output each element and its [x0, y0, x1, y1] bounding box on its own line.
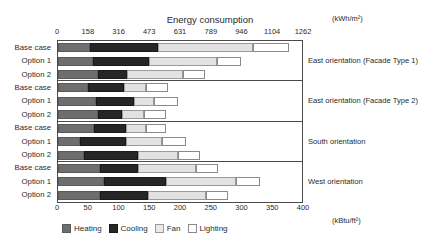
stacked-bar[interactable] — [58, 177, 260, 186]
bar-segment-cooling — [80, 137, 126, 146]
stacked-bar[interactable] — [58, 57, 241, 66]
bar-group — [58, 122, 302, 162]
category-label: Option 1 — [22, 137, 51, 146]
axis-tick-label: 789 — [205, 27, 218, 36]
axis-tick-label: 350 — [266, 203, 279, 212]
bar-segment-heating — [58, 124, 94, 133]
category-label: Option 2 — [22, 70, 51, 79]
axis-tick-label: 158 — [82, 27, 95, 36]
stacked-bar[interactable] — [58, 191, 228, 200]
bar-segment-heating — [58, 43, 90, 52]
stacked-bar[interactable] — [58, 43, 289, 52]
axis-tick-label: 250 — [204, 203, 217, 212]
bar-segment-cooling — [94, 124, 126, 133]
bar-segment-lighting — [146, 83, 168, 92]
bar-segment-heating — [58, 70, 98, 79]
bar-segment-heating — [58, 191, 100, 200]
category-label: Option 2 — [22, 150, 51, 159]
legend-label: Cooling — [121, 224, 148, 233]
axis-tick-label: 631 — [174, 27, 187, 36]
chart-title: Energy consumption — [120, 14, 300, 25]
legend-item-fan[interactable]: Fan — [155, 224, 181, 233]
bar-segment-heating — [58, 83, 88, 92]
bar-segment-lighting — [183, 70, 205, 79]
legend-item-lighting[interactable]: Lighting — [188, 224, 228, 233]
axis-tick-label: 300 — [235, 203, 248, 212]
legend-item-heating[interactable]: Heating — [62, 224, 102, 233]
bar-segment-cooling — [98, 110, 122, 119]
axis-tick-label: 150 — [143, 203, 156, 212]
plot-area — [57, 40, 303, 203]
legend-swatch-cooling — [109, 224, 118, 233]
bar-segment-fan — [138, 151, 178, 160]
bar-segment-lighting — [146, 124, 166, 133]
axis-tick-label: 0 — [55, 27, 59, 36]
stacked-bar[interactable] — [58, 83, 168, 92]
axis-tick-label: 200 — [174, 203, 187, 212]
bar-segment-fan — [138, 164, 196, 173]
axis-tick-label: 100 — [112, 203, 125, 212]
energy-consumption-chart: Energy consumption (kWh/m²) 015831647363… — [0, 0, 424, 248]
group-labels: East orientation (Facade Type 1)East ori… — [306, 40, 424, 203]
axis-tick-label: 1262 — [295, 27, 312, 36]
bar-row — [58, 189, 302, 202]
bar-segment-fan — [166, 177, 236, 186]
axis-tick-label: 316 — [112, 27, 125, 36]
category-label: Base case — [15, 83, 51, 92]
stacked-bar[interactable] — [58, 110, 166, 119]
bar-segment-heating — [58, 137, 80, 146]
axis-tick-label: 400 — [297, 203, 310, 212]
bar-segment-fan — [122, 110, 144, 119]
group-label: East orientation (Facade Type 1) — [308, 56, 418, 65]
bar-segment-cooling — [98, 70, 127, 79]
chart-legend: HeatingCoolingFanLighting — [62, 224, 228, 233]
bar-segment-lighting — [144, 110, 166, 119]
axis-tick-label: 50 — [84, 203, 92, 212]
bar-segment-cooling — [90, 43, 158, 52]
axis-tick-label: 0 — [55, 203, 59, 212]
legend-swatch-lighting — [188, 224, 197, 233]
bar-segment-cooling — [100, 164, 138, 173]
stacked-bar[interactable] — [58, 97, 178, 106]
legend-swatch-heating — [62, 224, 71, 233]
category-label: Option 1 — [22, 177, 51, 186]
axis-tick-label: 473 — [143, 27, 156, 36]
category-label: Option 1 — [22, 96, 51, 105]
group-label: West orientation — [308, 177, 363, 186]
bar-segment-cooling — [88, 83, 124, 92]
bar-segment-cooling — [100, 191, 148, 200]
legend-label: Heating — [74, 224, 102, 233]
bar-segment-fan — [124, 83, 146, 92]
bar-segment-fan — [158, 43, 253, 52]
bar-segment-fan — [126, 124, 146, 133]
bar-row — [58, 175, 302, 188]
bar-row — [58, 135, 302, 148]
bar-segment-cooling — [96, 97, 134, 106]
stacked-bar[interactable] — [58, 124, 166, 133]
bar-segment-cooling — [104, 177, 166, 186]
stacked-bar[interactable] — [58, 137, 186, 146]
bar-segment-heating — [58, 164, 100, 173]
top-axis-unit-label: (kWh/m²) — [332, 14, 363, 23]
bar-segment-fan — [134, 97, 154, 106]
bar-segment-lighting — [253, 43, 289, 52]
group-label: South orientation — [308, 137, 365, 146]
stacked-bar[interactable] — [58, 164, 218, 173]
bar-row — [58, 148, 302, 161]
legend-label: Lighting — [200, 224, 228, 233]
legend-item-cooling[interactable]: Cooling — [109, 224, 148, 233]
stacked-bar[interactable] — [58, 151, 200, 160]
bar-row — [58, 108, 302, 121]
category-label: Option 1 — [22, 56, 51, 65]
bar-segment-fan — [127, 70, 183, 79]
stacked-bar[interactable] — [58, 70, 205, 79]
bar-segment-lighting — [206, 191, 228, 200]
category-label: Option 2 — [22, 110, 51, 119]
bottom-axis: 050100150200250300350400 — [57, 203, 303, 215]
group-label: East orientation (Facade Type 2) — [308, 96, 418, 105]
bar-segment-lighting — [196, 164, 218, 173]
bar-group — [58, 41, 302, 81]
bar-segment-heating — [58, 57, 93, 66]
category-label: Base case — [15, 163, 51, 172]
bottom-axis-unit-label: (kBtu/ft²) — [332, 216, 361, 225]
